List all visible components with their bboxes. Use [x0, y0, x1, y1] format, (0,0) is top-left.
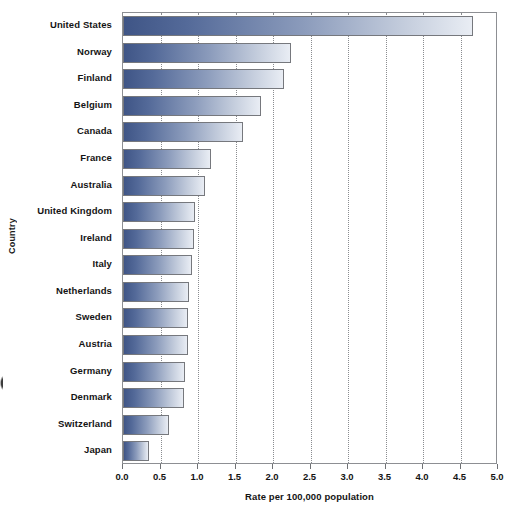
x-axis-tick: [235, 464, 236, 469]
bar: [123, 282, 189, 302]
bar: [123, 16, 473, 36]
bar: [123, 335, 188, 355]
bar: [123, 122, 243, 142]
category-label: Germany: [70, 364, 112, 378]
x-axis-tick-label: 3.5: [378, 471, 391, 482]
category-label: United States: [50, 18, 112, 32]
bar-row: [123, 438, 498, 465]
x-axis-tick: [310, 464, 311, 469]
x-axis-tick: [160, 464, 161, 469]
x-axis-tick: [272, 464, 273, 469]
bar: [123, 69, 284, 89]
bar-row: [123, 146, 498, 173]
bar-row: [123, 412, 498, 439]
x-axis-tick-label: 2.5: [303, 471, 316, 482]
bar-row: [123, 226, 498, 253]
bar: [123, 362, 185, 382]
category-label: Belgium: [74, 98, 112, 112]
bar: [123, 176, 205, 196]
bar-row: [123, 332, 498, 359]
bar-row: [123, 93, 498, 120]
bar: [123, 255, 192, 275]
x-axis-tick-label: 0.5: [153, 471, 166, 482]
bar: [123, 388, 184, 408]
category-label: Japan: [84, 443, 112, 457]
x-axis-tick: [122, 464, 123, 469]
x-axis-tick-label: 1.5: [228, 471, 241, 482]
x-axis-tick: [347, 464, 348, 469]
bar: [123, 441, 149, 461]
category-label: Canada: [77, 124, 112, 138]
bar-row: [123, 119, 498, 146]
x-axis-tick-label: 0.0: [115, 471, 128, 482]
x-axis-tick: [385, 464, 386, 469]
bar-row: [123, 173, 498, 200]
category-label: Switzerland: [58, 417, 112, 431]
bar-row: [123, 385, 498, 412]
x-axis-title: Rate per 100,000 population: [122, 491, 497, 502]
x-axis-ticks: [122, 464, 497, 470]
bar: [123, 415, 169, 435]
category-label: France: [80, 151, 112, 165]
bar: [123, 96, 261, 116]
category-axis-labels: United StatesNorwayFinlandBelgiumCanadaF…: [0, 12, 118, 464]
bar: [123, 308, 188, 328]
x-axis-tick-label: 1.0: [190, 471, 203, 482]
bar-row: [123, 199, 498, 226]
category-label: Netherlands: [56, 284, 112, 298]
bar-row: [123, 13, 498, 40]
x-axis-tick: [197, 464, 198, 469]
bar-row: [123, 279, 498, 306]
x-axis-tick-label: 5.0: [490, 471, 503, 482]
bar-row: [123, 66, 498, 93]
x-axis-tick: [497, 464, 498, 469]
bar-row: [123, 252, 498, 279]
category-label: Italy: [92, 257, 112, 271]
bar: [123, 229, 194, 249]
bar-row: [123, 359, 498, 386]
category-label: Denmark: [71, 390, 112, 404]
x-axis-tick: [422, 464, 423, 469]
category-label: Norway: [77, 45, 112, 59]
x-axis-tick-label: 2.0: [265, 471, 278, 482]
category-label: Australia: [70, 178, 112, 192]
category-label: Finland: [78, 71, 112, 85]
category-label: United Kingdom: [37, 204, 112, 218]
bar-chart: Country United StatesNorwayFinlandBelgiu…: [0, 0, 515, 513]
bar-row: [123, 40, 498, 67]
bar-series: [123, 13, 496, 463]
category-label: Sweden: [76, 310, 113, 324]
bar-row: [123, 305, 498, 332]
bar: [123, 202, 195, 222]
x-axis-tick-label: 3.0: [340, 471, 353, 482]
bar: [123, 149, 211, 169]
category-label: Ireland: [80, 231, 112, 245]
x-axis-tick-label: 4.5: [453, 471, 466, 482]
x-axis-tick: [460, 464, 461, 469]
category-label: Austria: [79, 337, 112, 351]
x-axis-tick-label: 4.0: [415, 471, 428, 482]
bar: [123, 43, 291, 63]
plot-area: [122, 12, 497, 464]
x-axis-tick-labels: 0.00.51.01.52.02.53.03.54.04.55.0: [122, 471, 497, 485]
